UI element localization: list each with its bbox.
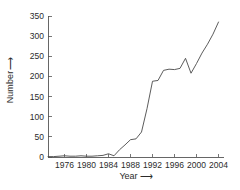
- chart-figure: Number⟶ Year⟶ 050100150200250300350 1976…: [0, 0, 240, 190]
- y-axis-ticks: [48, 16, 52, 157]
- series-line: [48, 22, 219, 157]
- plot-area: [0, 0, 240, 190]
- axis-lines: [48, 16, 224, 157]
- data-series-lines: [48, 22, 219, 157]
